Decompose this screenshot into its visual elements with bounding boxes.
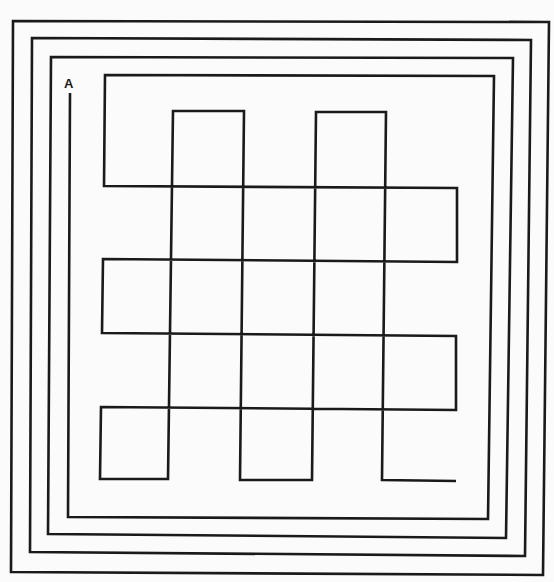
outer-rect-3 xyxy=(48,57,513,538)
spiral-weave-path xyxy=(68,75,494,519)
outer-rect-1 xyxy=(11,21,549,575)
start-label-a: A xyxy=(64,77,73,90)
maze-diagram xyxy=(0,0,554,582)
